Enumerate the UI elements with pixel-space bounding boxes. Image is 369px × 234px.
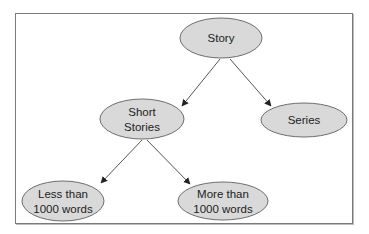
node-label-line1: More than — [197, 188, 249, 200]
node-label: Series — [288, 114, 321, 126]
node-label-line2: 1000 words — [33, 203, 93, 215]
node-story: Story — [180, 18, 262, 58]
tree-diagram: Story Short Stories Series Less than 100… — [0, 0, 369, 234]
edge-short-stories-to-more-than — [147, 140, 190, 184]
node-less-than-1000-words: Less than 1000 words — [22, 181, 104, 221]
edge-short-stories-to-less-than — [101, 140, 142, 183]
node-short-stories: Short Stories — [100, 99, 184, 139]
node-label-line1: Less than — [38, 188, 88, 200]
edge-story-to-short-stories — [182, 59, 220, 106]
node-label-line1: Short — [128, 106, 156, 118]
node-label-line2: 1000 words — [193, 203, 253, 215]
edge-story-to-series — [230, 59, 271, 106]
node-label: Story — [208, 32, 235, 44]
node-series: Series — [261, 103, 347, 137]
node-label-line2: Stories — [124, 121, 160, 133]
node-more-than-1000-words: More than 1000 words — [178, 182, 268, 220]
